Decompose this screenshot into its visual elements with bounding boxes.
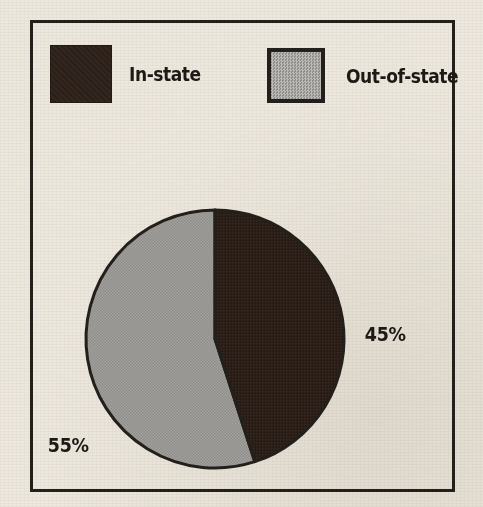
pie-plot-area: 45% 55%	[33, 23, 452, 489]
pie-data-label-out-of-state: 55%	[48, 434, 89, 456]
chart-frame-border: In-state Out-of-state	[30, 20, 455, 492]
pie-chart-figure: In-state Out-of-state	[0, 0, 483, 507]
pie-data-label-in-state: 45%	[365, 323, 406, 345]
pie-chart-svg	[85, 208, 345, 470]
